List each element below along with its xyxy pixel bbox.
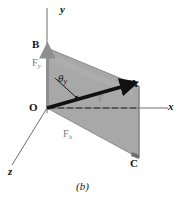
vector-decomposition-figure: y x z B O A C Fy Fh F θy (b) (0, 0, 181, 201)
fy-subscript: y (38, 62, 41, 70)
figure-caption: (b) (76, 181, 89, 192)
fh-base: F (63, 128, 69, 139)
fh-component-label: Fh (63, 129, 72, 140)
theta-subscript: y (63, 77, 66, 86)
x-axis-label: x (168, 101, 174, 112)
angle-theta-y-label: θy (58, 73, 67, 84)
point-c-label: C (130, 158, 138, 169)
figure-canvas (0, 0, 181, 201)
z-axis-label: z (8, 166, 12, 177)
fh-subscript: h (69, 133, 73, 141)
fy-component-label: Fy (32, 58, 41, 69)
point-a-label: A (130, 78, 138, 89)
z-axis-line (12, 108, 47, 165)
origin-label: O (29, 102, 38, 113)
force-vector-label: F (98, 94, 104, 105)
point-b-label: B (32, 39, 39, 50)
y-axis-label: y (60, 4, 65, 15)
fy-base: F (32, 57, 38, 68)
